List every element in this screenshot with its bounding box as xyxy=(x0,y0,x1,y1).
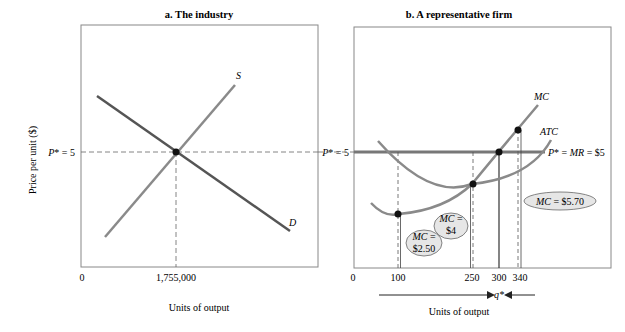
tick-300: 300 xyxy=(492,272,507,283)
bubble-mc-5-70-text: MC = $5.70 xyxy=(535,196,584,207)
tick-250: 250 xyxy=(465,272,480,283)
supply-label: S xyxy=(236,70,241,81)
left-zero-tick: 0 xyxy=(80,272,85,283)
demand-label: D xyxy=(288,217,297,228)
left-title: a. The industry xyxy=(165,9,234,20)
right-title: b. A representative firm xyxy=(406,9,513,20)
arrow-left-head xyxy=(504,291,512,299)
q-star-label: q* xyxy=(494,289,504,300)
left-plot-frame xyxy=(81,25,318,267)
point-q340 xyxy=(515,127,522,134)
right-price-label: P* = 5 xyxy=(321,147,349,158)
tick-340: 340 xyxy=(513,272,528,283)
left-equilibrium-point xyxy=(173,149,180,156)
left-x-axis-label: Units of output xyxy=(169,302,230,313)
point-q300 xyxy=(496,149,503,156)
atc-label: ATC xyxy=(539,126,558,137)
left-price-label: P* = 5 xyxy=(47,147,75,158)
point-q250 xyxy=(470,181,477,188)
bubble-mc-2-50-line1: MC = xyxy=(411,231,436,242)
bubble-mc-2-50-line2: $2.50 xyxy=(413,243,436,254)
mc-label: MC xyxy=(533,91,549,102)
point-q100 xyxy=(395,211,402,218)
chart-canvas: a. The industry Price per unit ($) P* = … xyxy=(0,0,625,332)
left-quantity-tick: 1,755,000 xyxy=(156,272,196,283)
right-zero-tick: 0 xyxy=(351,272,356,283)
mr-label: P* = MR = $5 xyxy=(547,147,605,158)
right-x-axis-label: Units of output xyxy=(429,306,490,317)
atc-curve xyxy=(378,140,551,187)
tick-100: 100 xyxy=(391,272,406,283)
y-axis-label: Price per unit ($) xyxy=(27,126,39,194)
bubble-mc-4-line1: MC = xyxy=(438,213,463,224)
bubble-mc-4-line2: $4 xyxy=(446,225,456,236)
supply-curve xyxy=(105,85,235,237)
